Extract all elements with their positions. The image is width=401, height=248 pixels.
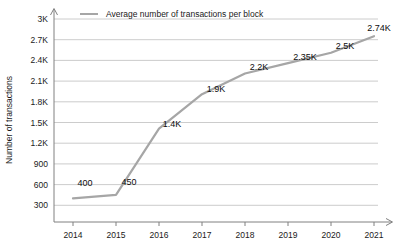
legend-label: Average number of transactions per block	[106, 9, 264, 19]
y-tick-label: 1.2K	[31, 138, 49, 148]
x-tick-label: 2017	[193, 230, 212, 240]
point-label-2021: 2.74K	[367, 23, 391, 33]
x-tick-labels: 2014 2015 2016 2017 2018 2019 2020 2021	[64, 230, 384, 240]
x-tick-label: 2014	[64, 230, 83, 240]
point-label-2020: 2.5K	[336, 41, 355, 51]
y-tick-label: 1.8K	[31, 97, 49, 107]
point-label-2017: 1.9K	[207, 84, 226, 94]
data-point-labels: 400 450 1.4K 1.9K 2.2K 2.35K 2.5K 2.74K	[77, 23, 390, 188]
y-tick-label: 2.1K	[31, 76, 49, 86]
x-tick-label: 2016	[150, 230, 169, 240]
chart-canvas: 3K 2.7K 2.4K 2.1K 1.8K 1.5K 1.2K 900 600…	[0, 0, 401, 248]
x-tick-label: 2020	[322, 230, 341, 240]
legend: Average number of transactions per block	[80, 9, 264, 19]
y-tick-labels: 3K 2.7K 2.4K 2.1K 1.8K 1.5K 1.2K 900 600…	[31, 14, 49, 210]
y-axis-title: Number of transactions	[4, 76, 14, 164]
x-tick-label: 2018	[236, 230, 255, 240]
y-tick-label: 2.4K	[31, 55, 49, 65]
x-axis	[54, 219, 393, 227]
gridlines	[54, 19, 378, 205]
point-label-2018: 2.2K	[250, 62, 269, 72]
point-label-2019: 2.35K	[293, 52, 317, 62]
y-tick-label: 900	[34, 159, 48, 169]
point-label-2014: 400	[77, 178, 92, 188]
point-label-2016: 1.4K	[163, 119, 182, 129]
y-tick-label: 300	[34, 200, 48, 210]
y-axis	[51, 9, 58, 223]
x-tick-label: 2021	[365, 230, 384, 240]
x-tick-label: 2019	[279, 230, 298, 240]
y-tick-label: 2.7K	[31, 35, 49, 45]
y-tick-label: 3K	[38, 14, 49, 24]
x-tick-label: 2015	[107, 230, 126, 240]
y-tick-label: 600	[34, 180, 48, 190]
line-chart: 3K 2.7K 2.4K 2.1K 1.8K 1.5K 1.2K 900 600…	[0, 0, 401, 248]
y-tick-label: 1.5K	[31, 118, 49, 128]
point-label-2015: 450	[121, 177, 136, 187]
